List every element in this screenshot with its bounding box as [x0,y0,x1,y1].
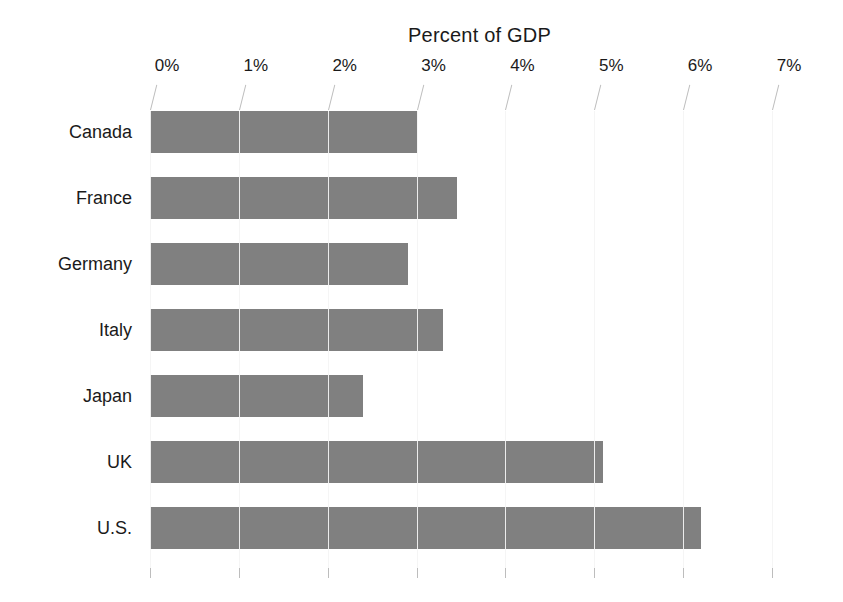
y-axis-category-label: Italy [0,309,132,351]
chart-title-text: Percent of GDP [408,24,551,46]
gridline-overlay [417,111,418,568]
bar [150,507,701,549]
x-axis-tick-label: 1% [244,56,269,76]
bar [150,177,457,219]
y-axis-category-label: Japan [0,375,132,417]
gridline-overlay [239,111,240,568]
gridline-overlay [328,111,329,568]
y-axis-category-label: France [0,177,132,219]
y-axis-category-label: Canada [0,111,132,153]
x-axis-tick-mark [417,85,424,110]
x-axis-tick-label: 7% [777,56,802,76]
x-axis-tick-mark [683,85,690,110]
gridline-overlay [683,111,684,568]
x-axis-tick-mark [150,85,157,110]
y-axis-category-label: UK [0,441,132,483]
x-axis-tick-mark [328,85,335,110]
x-axis-tick-label: 2% [332,56,357,76]
bar [150,243,408,285]
x-axis-tick-label: 6% [688,56,713,76]
x-axis-tick-label: 3% [421,56,446,76]
chart-title: Percent of GDP [0,24,843,47]
bar-chart-figure: Percent of GDP 0%1%2%3%4%5%6%7% CanadaFr… [0,0,843,602]
x-axis-tick-mark [505,85,512,110]
y-axis-category-label: Germany [0,243,132,285]
gridline-overlay [772,111,773,568]
plot-area [150,111,772,568]
bar [150,309,443,351]
y-axis-category-labels: CanadaFranceGermanyItalyJapanUKU.S. [0,111,132,568]
x-axis-tick-mark [772,85,779,110]
y-axis-category-label: U.S. [0,507,132,549]
x-axis-tick-label: 5% [599,56,624,76]
bar [150,441,603,483]
gridline-overlay [505,111,506,568]
bar [150,375,363,417]
gridline-overlay [594,111,595,568]
x-axis-tick-mark [594,85,601,110]
bar [150,111,417,153]
x-axis-tick-mark [239,85,246,110]
x-axis-tick-label: 0% [155,56,180,76]
gridline-overlay [150,111,151,568]
x-axis-tick-label: 4% [510,56,535,76]
